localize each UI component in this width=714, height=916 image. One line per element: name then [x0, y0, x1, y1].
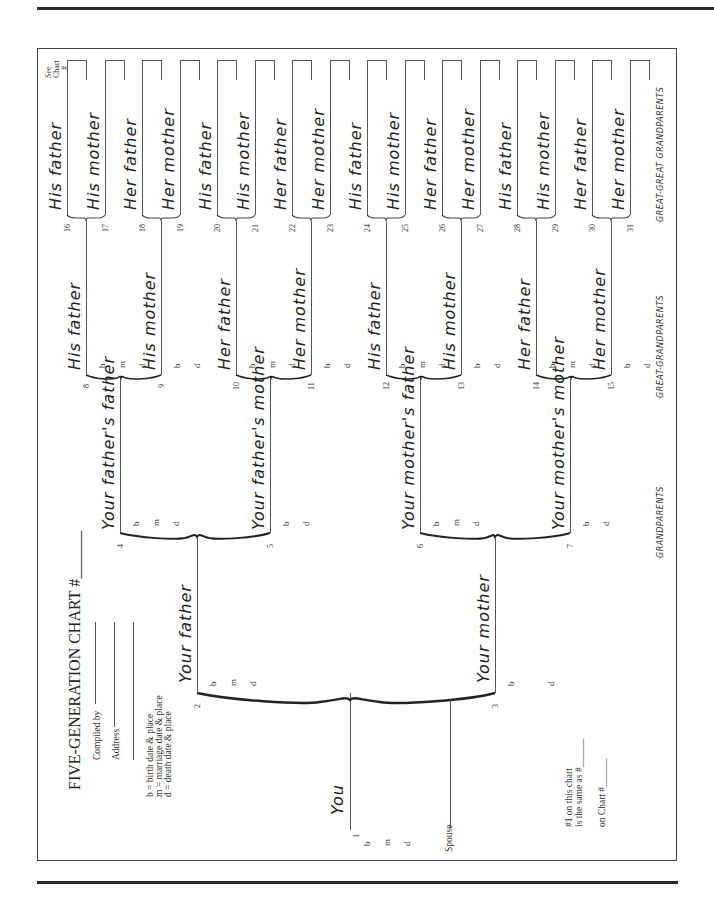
person-23-line[interactable] — [330, 60, 331, 215]
person-14-name[interactable]: Her father — [515, 278, 534, 370]
person-10-line[interactable] — [236, 221, 237, 375]
person-29-number: 29 — [551, 224, 560, 232]
person-24-name[interactable]: His father — [346, 122, 365, 210]
person-20-name[interactable]: His father — [196, 122, 215, 210]
person-13-line[interactable] — [461, 221, 462, 375]
person-21-name[interactable]: His mother — [234, 112, 253, 210]
person-11-name[interactable]: Her mother — [290, 268, 309, 370]
label-grandparents: GRANDPARENTS — [656, 486, 665, 558]
person-27-name[interactable]: Her mother — [459, 108, 478, 210]
person-17-number: 17 — [101, 224, 110, 232]
person-22-line[interactable] — [292, 60, 293, 215]
person-31-line[interactable] — [630, 60, 631, 215]
person-26-see-chart-box[interactable] — [442, 60, 462, 80]
person-17-name[interactable]: His mother — [84, 112, 103, 210]
person-29-name[interactable]: His mother — [534, 112, 553, 210]
label-great-great-grandparents: GREAT-GREAT GRANDPARENTS — [656, 87, 665, 222]
person-21-line[interactable] — [255, 60, 256, 215]
person-1-line[interactable] — [350, 693, 351, 830]
person-28-line[interactable] — [517, 60, 518, 215]
person-28-number: 28 — [513, 224, 522, 232]
person-7-line[interactable] — [570, 378, 571, 533]
person-3-d: d — [546, 682, 556, 687]
person-16-name[interactable]: His father — [46, 122, 65, 210]
person-14-line[interactable] — [536, 221, 537, 375]
person-1-m: m — [382, 839, 392, 846]
person-12-line[interactable] — [386, 221, 387, 375]
person-6-name[interactable]: Your mother's father — [399, 346, 418, 530]
person-31-see-chart-box[interactable] — [630, 60, 650, 80]
person-30-see-chart-box[interactable] — [592, 60, 612, 80]
person-15-number: 15 — [607, 382, 616, 390]
person-30-name[interactable]: Her father — [571, 118, 590, 210]
person-23-see-chart-box[interactable] — [330, 60, 350, 80]
person-20-line[interactable] — [217, 60, 218, 215]
person-10-m: m — [267, 361, 277, 368]
person-3-name[interactable]: Your mother — [474, 574, 493, 683]
person-15-line[interactable] — [611, 221, 612, 375]
person-15-name[interactable]: Her mother — [590, 268, 609, 370]
person-9-number: 9 — [157, 384, 166, 388]
person-8-number: 8 — [82, 384, 91, 388]
person-6-line[interactable] — [420, 378, 421, 533]
person-13-name[interactable]: His mother — [440, 272, 459, 370]
person-26-line[interactable] — [442, 60, 443, 215]
person-16-line[interactable] — [67, 60, 68, 215]
person-2-name[interactable]: Your father — [176, 584, 195, 683]
person-29-see-chart-box[interactable] — [555, 60, 575, 80]
person-25-name[interactable]: His mother — [384, 112, 403, 210]
person-8-line[interactable] — [86, 221, 87, 375]
person-30-line[interactable] — [592, 60, 593, 215]
person-6-number: 6 — [416, 544, 425, 548]
person-17-line[interactable] — [105, 60, 106, 215]
spouse-line[interactable] — [450, 700, 451, 828]
person-5-line[interactable] — [270, 378, 271, 533]
person-4-m: m — [151, 519, 161, 526]
person-22-see-chart-box[interactable] — [292, 60, 312, 80]
person-24-see-chart-box[interactable] — [367, 60, 387, 80]
person-25-line[interactable] — [405, 60, 406, 215]
person-18-see-chart-box[interactable] — [142, 60, 162, 80]
person-28-name[interactable]: His father — [496, 122, 515, 210]
person-1-name[interactable]: You — [328, 784, 347, 815]
person-9-name[interactable]: His mother — [140, 272, 159, 370]
person-17-see-chart-box[interactable] — [105, 60, 125, 80]
address-line-2[interactable] — [133, 622, 134, 760]
person-10-name[interactable]: Her father — [215, 278, 234, 370]
person-29-line[interactable] — [555, 60, 556, 215]
person-27-see-chart-box[interactable] — [480, 60, 500, 80]
person-27-line[interactable] — [480, 60, 481, 215]
person-21-see-chart-box[interactable] — [255, 60, 275, 80]
person-11-line[interactable] — [311, 221, 312, 375]
person-3-line[interactable] — [495, 537, 496, 693]
label-great-grandparents: GREAT-GRANDPARENTS — [656, 295, 665, 398]
person-12-name[interactable]: His father — [365, 282, 384, 370]
person-23-name[interactable]: Her mother — [309, 108, 328, 210]
person-14-m: m — [567, 361, 577, 368]
person-8-name[interactable]: His father — [65, 282, 84, 370]
person-18-name[interactable]: Her father — [121, 118, 140, 210]
person-19-line[interactable] — [180, 60, 181, 215]
compiled-by-line[interactable] — [95, 622, 96, 704]
person-19-name[interactable]: Her mother — [159, 108, 178, 210]
person-31-name[interactable]: Her mother — [609, 108, 628, 210]
person-16-see-chart-box[interactable] — [67, 60, 87, 80]
person-2-b: b — [208, 682, 218, 687]
person-26-name[interactable]: Her father — [421, 118, 440, 210]
top-rule — [37, 7, 714, 10]
person-12-m: m — [417, 361, 427, 368]
person-24-line[interactable] — [367, 60, 368, 215]
person-25-see-chart-box[interactable] — [405, 60, 425, 80]
person-22-name[interactable]: Her father — [271, 118, 290, 210]
person-15-b: b — [622, 364, 632, 369]
person-9-line[interactable] — [161, 221, 162, 375]
person-20-see-chart-box[interactable] — [217, 60, 237, 80]
person-19-see-chart-box[interactable] — [180, 60, 200, 80]
person-5-name[interactable]: Your father's mother — [249, 346, 268, 530]
person-4-name[interactable]: Your father's father — [99, 356, 118, 530]
address-line-1[interactable] — [114, 622, 115, 727]
person-28-see-chart-box[interactable] — [517, 60, 537, 80]
person-2-line[interactable] — [197, 537, 198, 693]
person-4-line[interactable] — [120, 378, 121, 533]
person-18-line[interactable] — [142, 60, 143, 215]
